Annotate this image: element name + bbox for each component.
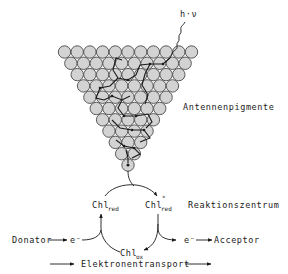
antenna-pigment	[84, 46, 96, 58]
photon-label: h·ν	[180, 9, 197, 19]
reduction-arrow	[101, 214, 120, 252]
antenna-pigment	[173, 46, 185, 58]
oxidation-arrow	[144, 224, 158, 250]
svg-text:red: red	[108, 205, 119, 212]
antenna-pigment	[135, 46, 147, 58]
excitation-arrow	[105, 185, 157, 196]
antenna-pigment	[90, 80, 102, 92]
antenna-pigment	[96, 68, 108, 80]
antenna-pigment	[90, 57, 102, 69]
antenna-pigment	[122, 46, 134, 58]
antenna-pigment	[115, 125, 127, 137]
antenna-pigment	[96, 114, 108, 126]
antenna-pigment	[135, 136, 147, 148]
antenna-pigment	[109, 114, 121, 126]
antenna-pigment	[173, 68, 185, 80]
svg-text:*: *	[162, 194, 166, 201]
antenna-pigment	[90, 102, 102, 114]
antenna-pigment	[65, 57, 77, 69]
antenna-pigment	[185, 46, 197, 58]
antenna-pigment	[135, 91, 147, 103]
electron-out-label: e⁻	[184, 235, 195, 245]
antenna-pigment	[84, 68, 96, 80]
antenna-pigment	[147, 46, 159, 58]
antenna-pigment	[58, 46, 70, 58]
antenna-pigment	[84, 91, 96, 103]
chl-red-excited-label: Chl * red	[145, 194, 172, 212]
antenna-pigment	[115, 80, 127, 92]
antenna-pigment	[154, 102, 166, 114]
antenna-pigment-array	[58, 46, 197, 171]
transport-label: Elektronentransport	[81, 259, 190, 269]
antenna-pigment	[128, 102, 140, 114]
antenna-pigment	[154, 80, 166, 92]
svg-text:red: red	[161, 205, 172, 212]
antenna-pigment	[71, 46, 83, 58]
antenna-pigment	[147, 91, 159, 103]
antenna-pigment	[115, 148, 127, 160]
donor-label: Donator	[12, 235, 52, 245]
antenna-pigment	[77, 80, 89, 92]
antenna-pigment	[166, 80, 178, 92]
antenna-label: Antennenpigmente	[183, 102, 274, 112]
antenna-pigment	[96, 46, 108, 58]
electron-in-label: e⁻	[70, 235, 81, 245]
antenna-pigment	[103, 102, 115, 114]
antenna-pigment	[160, 68, 172, 80]
electron-release-arrow	[158, 214, 176, 240]
antenna-pigment	[128, 80, 140, 92]
electron-donation-line	[82, 230, 101, 240]
antenna-pigment	[109, 46, 121, 58]
chl-red-label: Chl red	[92, 200, 119, 212]
antenna-pigment	[147, 68, 159, 80]
svg-text:Chl: Chl	[92, 200, 109, 210]
antenna-pigment	[179, 57, 191, 69]
antenna-pigment	[77, 57, 89, 69]
antenna-pigment	[141, 57, 153, 69]
reaction-center-label: Reaktionszentrum	[188, 200, 279, 210]
antenna-pigment	[128, 148, 140, 160]
antenna-pigment	[141, 102, 153, 114]
acceptor-label: Acceptor	[214, 235, 260, 245]
svg-text:Chl: Chl	[120, 248, 137, 258]
antenna-pigment	[103, 125, 115, 137]
antenna-pigment	[160, 91, 172, 103]
antenna-pigment	[71, 68, 83, 80]
rc-connector-line	[128, 171, 134, 186]
svg-text:Chl: Chl	[145, 200, 162, 210]
photosynthesis-diagram: h·ν Antennenpigmente Chl red Chl * red R…	[0, 0, 288, 274]
antenna-pigment	[128, 125, 140, 137]
